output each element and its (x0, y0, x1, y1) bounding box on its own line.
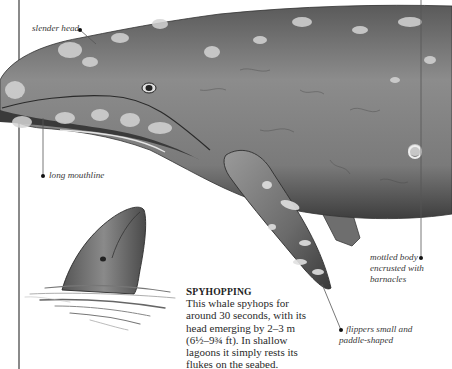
spyhopping-body: This whale spyhops for around 30 seconds… (186, 297, 326, 369)
mouthline-dot (41, 174, 45, 178)
label-slender-head: slender head (32, 23, 79, 34)
label-mottled-body: mottled body encrusted with barnacles (370, 252, 424, 285)
flippers-dot (339, 328, 343, 332)
label-flippers: flippers small and paddle-shaped (346, 324, 412, 346)
spyhopping-heading: SPYHOPPING (186, 285, 252, 297)
spyhopping-whale (62, 207, 146, 294)
label-long-mouthline: long mouthline (49, 170, 104, 181)
whale-body (0, 5, 452, 218)
